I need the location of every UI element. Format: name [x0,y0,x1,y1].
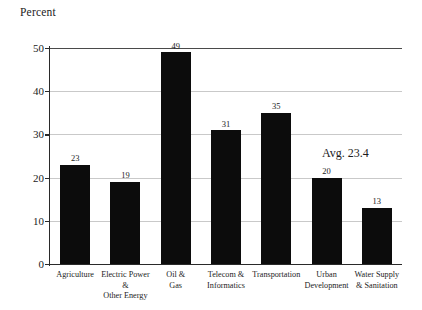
x-axis-label-line: & Sanitation [352,281,402,292]
x-axis-label-line: Oil & [151,270,201,281]
chart-axis-title: Percent [20,6,56,18]
y-tick-label-20: 20 [4,172,44,183]
bar-chart: Percent 23194931352013 01020304050Agricu… [0,0,422,310]
bar: 35 [261,113,291,264]
x-axis-label-line: Development [301,281,351,292]
bar-value-label: 20 [322,167,331,176]
y-tick-label-40: 40 [4,86,44,97]
bar: 23 [60,165,90,264]
x-axis-label: Transportation [251,270,301,281]
gridline-40 [50,91,402,92]
bar-value-label: 19 [121,171,130,180]
y-tick-label-0: 0 [4,259,44,270]
x-axis-label: Agriculture [50,270,100,281]
average-annotation: Avg. 23.4 [322,147,369,159]
y-tick-mark-30 [45,134,50,135]
y-tick-mark-10 [45,221,50,222]
bar-value-label: 23 [71,154,80,163]
x-axis-label-line: Urban [301,270,351,281]
x-axis-label: Water Supply& Sanitation [352,270,402,291]
x-axis-label: Electric Power &Other Energy [100,270,150,302]
bar: 19 [110,182,140,264]
bar: 13 [362,208,392,264]
bar: 49 [161,52,191,264]
y-tick-mark-50 [45,48,50,49]
y-tick-label-30: 30 [4,129,44,140]
x-axis-label-line: Telecom & [201,270,251,281]
x-axis-label-line: Electric Power & [100,270,150,291]
bar-value-label: 35 [272,102,281,111]
x-axis-label-line: Agriculture [50,270,100,281]
x-axis-label: Telecom &Informatics [201,270,251,291]
x-axis-label: UrbanDevelopment [301,270,351,291]
y-tick-mark-40 [45,91,50,92]
bar: 20 [312,178,342,264]
bar-value-label: 49 [171,42,180,51]
bar-value-label: 13 [373,197,382,206]
x-axis-label-line: Other Energy [100,291,150,302]
bar-value-label: 31 [222,120,231,129]
y-tick-label-50: 50 [4,43,44,54]
gridline-50 [50,48,402,49]
x-axis-label-line: Transportation [251,270,301,281]
bar: 31 [211,130,241,264]
y-tick-label-10: 10 [4,215,44,226]
x-axis-label: Oil &Gas [151,270,201,291]
x-axis-line [50,264,402,265]
x-axis-label-line: Gas [151,281,201,292]
y-tick-mark-0 [45,264,50,265]
x-axis-label-line: Water Supply [352,270,402,281]
x-axis-label-line: Informatics [201,281,251,292]
y-tick-mark-20 [45,178,50,179]
